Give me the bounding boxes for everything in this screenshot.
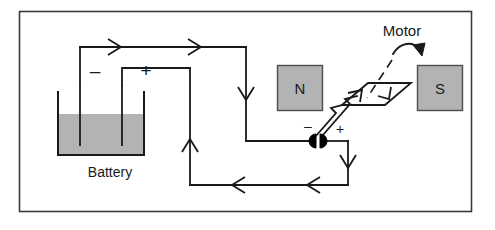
electrolyte-fill [58, 114, 144, 155]
battery-negative-sign: – [90, 60, 101, 81]
diagram-canvas: N S – + – + Battery [0, 0, 495, 230]
battery-positive-sign: + [140, 60, 151, 81]
magnet-south-label: S [435, 80, 445, 97]
circuit-diagram: N S – + – + Battery [0, 0, 495, 230]
magnet-south: S [418, 66, 463, 111]
magnet-north: N [278, 66, 323, 111]
motor-label: Motor [383, 22, 421, 39]
magnet-north-label: N [295, 80, 306, 97]
commutator-positive-sign: + [336, 121, 344, 137]
commutator-negative-sign: – [304, 118, 312, 134]
battery-label: Battery [88, 164, 132, 180]
